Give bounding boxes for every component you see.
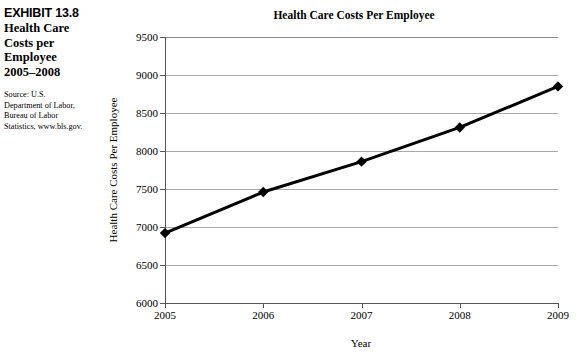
y-axis-tick-label: 8000: [136, 145, 158, 157]
y-axis-tick-label: 9500: [136, 31, 158, 43]
y-axis-tick-label: 7000: [136, 221, 158, 233]
data-point-marker: [258, 187, 268, 197]
plot-area: 60006500700075008000850090009500 2005200…: [165, 37, 558, 303]
exhibit-title-line: Costs per: [4, 36, 122, 51]
caption-panel: EXHIBIT 13.8 Health Care Costs per Emplo…: [4, 6, 122, 132]
source-note-line: Statistics, www.bls.gov.: [4, 122, 122, 133]
exhibit-title-line: Employee: [4, 50, 122, 65]
exhibit-title: Health Care Costs per Employee 2005–2008: [4, 21, 122, 79]
data-series: [165, 37, 558, 304]
source-note: Source: U.S. Department of Labor, Bureau…: [4, 90, 122, 132]
exhibit-figure: EXHIBIT 13.8 Health Care Costs per Emplo…: [0, 0, 578, 359]
source-note-line: Bureau of Labor: [4, 111, 122, 122]
y-axis-tick-label: 6500: [136, 259, 158, 271]
x-axis-tick-label: 2005: [154, 309, 176, 321]
x-axis-tick-label: 2006: [252, 309, 274, 321]
data-point-marker: [553, 81, 563, 91]
x-axis-tick-label: 2009: [547, 309, 569, 321]
y-axis-tick-label: 8500: [136, 107, 158, 119]
source-note-line: Department of Labor,: [4, 101, 122, 112]
x-axis-tick-label: 2007: [351, 309, 373, 321]
chart-title: Health Care Costs Per Employee: [130, 9, 578, 21]
exhibit-title-line: Health Care: [4, 21, 122, 36]
data-point-marker: [356, 156, 366, 166]
exhibit-number: EXHIBIT 13.8: [4, 6, 122, 20]
y-axis-tick-label: 7500: [136, 183, 158, 195]
source-note-line: Source: U.S.: [4, 90, 122, 101]
y-axis-tick-label: 9000: [136, 69, 158, 81]
x-axis-tick-label: 2008: [449, 309, 471, 321]
y-axis-tick-label: 6000: [136, 297, 158, 309]
data-point-marker: [160, 228, 170, 238]
exhibit-title-line: 2005–2008: [4, 65, 122, 80]
line-chart: Health Care Costs Per Employee 600065007…: [130, 0, 578, 359]
y-axis-title: Health Care Costs Per Employee: [107, 98, 119, 243]
data-point-marker: [455, 122, 465, 132]
x-axis-title: Year: [351, 337, 371, 349]
